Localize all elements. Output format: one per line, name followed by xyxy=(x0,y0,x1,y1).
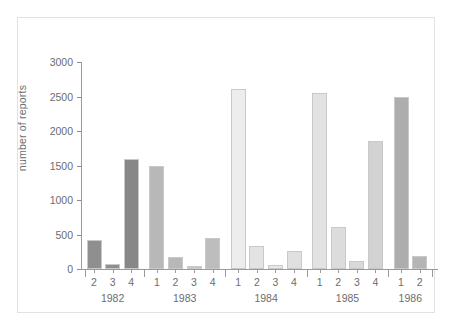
x-axis-tick-mark xyxy=(401,269,402,273)
y-axis-line xyxy=(81,62,82,270)
bar xyxy=(394,97,409,269)
y-axis-tick-label: 1500 xyxy=(39,160,73,172)
x-axis-tick-mark xyxy=(194,269,195,273)
bar xyxy=(124,159,139,269)
bar xyxy=(87,240,102,269)
x-axis-group-separator xyxy=(432,269,433,277)
x-axis-tick-mark xyxy=(420,269,421,273)
x-axis-quarter-label: 1 xyxy=(317,276,323,288)
x-axis-tick-mark xyxy=(338,269,339,273)
y-axis-label: number of reports xyxy=(16,68,28,188)
x-axis-quarter-label: 4 xyxy=(372,276,378,288)
bar xyxy=(249,246,264,269)
bar xyxy=(149,166,164,270)
x-axis-tick-mark xyxy=(375,269,376,273)
x-axis-quarter-label: 2 xyxy=(172,276,178,288)
x-axis-group-separator xyxy=(388,269,389,277)
x-axis-quarter-label: 3 xyxy=(110,276,116,288)
bar xyxy=(368,141,383,269)
x-axis-line xyxy=(81,269,438,270)
y-axis-tick-label: 500 xyxy=(39,229,73,241)
y-axis-tick-mark xyxy=(77,235,81,236)
x-axis-tick-mark xyxy=(357,269,358,273)
x-axis-tick-mark xyxy=(294,269,295,273)
bar xyxy=(331,227,346,269)
x-axis-tick-mark xyxy=(275,269,276,273)
bar xyxy=(287,251,302,269)
y-axis-tick-mark xyxy=(77,166,81,167)
x-axis-quarter-label: 2 xyxy=(417,276,423,288)
x-axis-quarter-label: 3 xyxy=(191,276,197,288)
x-axis-quarter-label: 4 xyxy=(291,276,297,288)
y-axis-tick-mark xyxy=(77,62,81,63)
x-axis-quarter-label: 4 xyxy=(210,276,216,288)
x-axis-quarter-label: 1 xyxy=(154,276,160,288)
x-axis-group-separator xyxy=(225,269,226,277)
x-axis-quarter-label: 2 xyxy=(254,276,260,288)
x-axis-quarter-label: 1 xyxy=(235,276,241,288)
x-axis-quarter-label: 3 xyxy=(272,276,278,288)
x-axis-quarter-label: 2 xyxy=(335,276,341,288)
y-axis-tick-label: 1000 xyxy=(39,194,73,206)
bar xyxy=(349,261,364,269)
bar-chart: number of reports 0500100015002000250030… xyxy=(0,0,457,334)
x-axis-tick-mark xyxy=(157,269,158,273)
y-axis-tick-label: 2500 xyxy=(39,91,73,103)
y-axis-tick-label: 2000 xyxy=(39,125,73,137)
x-axis-year-label: 1984 xyxy=(254,292,277,304)
bar xyxy=(231,89,246,269)
x-axis-year-label: 1982 xyxy=(101,292,124,304)
x-axis-tick-mark xyxy=(320,269,321,273)
x-axis-quarter-label: 4 xyxy=(128,276,134,288)
y-axis-tick-label: 3000 xyxy=(39,56,73,68)
x-axis-tick-mark xyxy=(113,269,114,273)
x-axis-quarter-label: 3 xyxy=(354,276,360,288)
bar xyxy=(312,93,327,269)
x-axis-quarter-label: 1 xyxy=(398,276,404,288)
x-axis-tick-mark xyxy=(94,269,95,273)
bar xyxy=(168,257,183,269)
x-axis-group-separator xyxy=(85,269,86,277)
bar xyxy=(412,256,427,269)
x-axis-year-label: 1986 xyxy=(399,292,422,304)
x-axis-tick-mark xyxy=(238,269,239,273)
x-axis-tick-mark xyxy=(131,269,132,273)
y-axis-tick-mark xyxy=(77,97,81,98)
x-axis-tick-mark xyxy=(257,269,258,273)
y-axis-tick-mark xyxy=(77,269,81,270)
x-axis-quarter-label: 2 xyxy=(91,276,97,288)
bar xyxy=(205,238,220,269)
y-axis-tick-mark xyxy=(77,200,81,201)
x-axis-tick-mark xyxy=(175,269,176,273)
x-axis-tick-mark xyxy=(213,269,214,273)
x-axis-year-label: 1983 xyxy=(173,292,196,304)
x-axis-year-label: 1985 xyxy=(336,292,359,304)
x-axis-group-separator xyxy=(307,269,308,277)
y-axis-tick-label: 0 xyxy=(39,263,73,275)
x-axis-group-separator xyxy=(144,269,145,277)
y-axis-tick-mark xyxy=(77,131,81,132)
